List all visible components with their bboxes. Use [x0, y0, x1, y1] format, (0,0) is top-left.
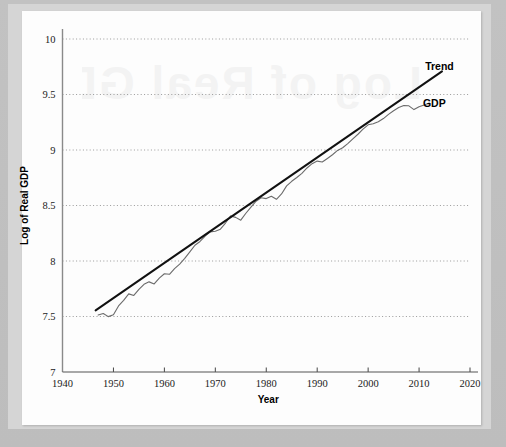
series-line-trend	[96, 71, 442, 310]
x-tick-label-2010: 2010	[409, 378, 430, 389]
data-series-group	[96, 71, 442, 316]
chart-container: 194019501960197019801990200020102020 77.…	[0, 0, 506, 447]
x-tick-label-1960: 1960	[154, 378, 175, 389]
y-tick-label-9-5: 9.5	[42, 89, 55, 100]
page-background: Log of Real GDP 194019501960197019801990…	[0, 0, 506, 447]
annotation-gdp: GDP	[423, 97, 446, 109]
y-tick-label-8: 8	[50, 256, 55, 267]
y-tick-label-9: 9	[50, 145, 55, 156]
x-tick-group: 194019501960197019801990200020102020	[52, 368, 481, 389]
x-tick-label-1980: 1980	[256, 378, 277, 389]
annotation-trend: Trend	[425, 60, 454, 72]
x-tick-label-1970: 1970	[205, 378, 226, 389]
series-annotations-group: TrendGDP	[423, 60, 454, 109]
x-tick-label-1990: 1990	[307, 378, 328, 389]
x-axis-title: Year	[258, 394, 279, 405]
series-line-gdp	[98, 103, 429, 317]
y-tick-group: 77.588.599.510	[42, 34, 55, 378]
y-tick-label-7: 7	[50, 367, 55, 378]
y-tick-label-7-5: 7.5	[42, 311, 55, 322]
gdp-trend-line-chart: 194019501960197019801990200020102020 77.…	[0, 0, 506, 447]
y-axis-title: Log of Real GDP	[19, 166, 30, 245]
y-tick-label-10: 10	[45, 34, 56, 45]
gridlines-group	[63, 39, 471, 317]
x-tick-label-2020: 2020	[460, 378, 481, 389]
y-tick-label-8-5: 8.5	[42, 200, 55, 211]
x-tick-label-2000: 2000	[358, 378, 379, 389]
axis-lines-group	[63, 29, 479, 372]
x-tick-label-1940: 1940	[52, 378, 73, 389]
x-tick-label-1950: 1950	[103, 378, 124, 389]
